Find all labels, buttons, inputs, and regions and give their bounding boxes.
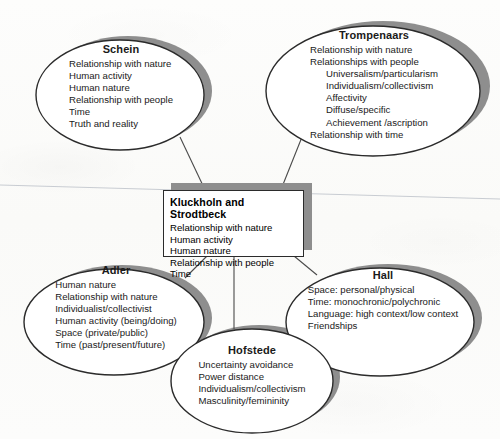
node-items-hofstede: Uncertainty avoidance Power distance Ind… <box>198 359 305 407</box>
node-label-hall: Hall Space: personal/physical Time: mono… <box>295 270 471 332</box>
node-item: Space (private/public) <box>55 327 177 339</box>
node-item: Individualism/collectivism <box>198 383 305 395</box>
node-item: Relationship with people <box>69 94 173 106</box>
node-title-hofstede: Hofstede <box>170 345 334 356</box>
center-item: Human activity <box>170 234 274 246</box>
node-item: Space: personal/physical <box>308 284 458 296</box>
node-item: Individualist/collectivist <box>55 303 177 315</box>
center-box-items: Relationship with nature Human activity … <box>170 222 274 280</box>
node-item: Power distance <box>198 371 305 383</box>
node-title-hall: Hall <box>295 270 471 281</box>
node-item: Relationship with time <box>310 129 438 141</box>
node-item: Uncertainty avoidance <box>198 359 305 371</box>
node-item: Relationship with nature <box>55 291 177 303</box>
center-item: Time <box>170 268 274 280</box>
node-item: Human activity <box>69 70 173 82</box>
node-title-trompenaars: Trompenaars <box>283 30 465 41</box>
node-item: Diffuse/specific <box>310 104 438 116</box>
node-item: Truth and reality <box>69 118 173 130</box>
diagram-canvas: Kluckholn and Strodtbeck Relationship wi… <box>0 0 500 439</box>
node-item: Individualism/collectivism <box>310 80 438 92</box>
node-item: Masculinity/femininity <box>198 395 305 407</box>
node-item: Human nature <box>69 82 173 94</box>
node-item: Relationship with nature <box>310 44 438 56</box>
node-label-schein: Schein Relationship with nature Human ac… <box>40 44 202 131</box>
node-item: Human activity (being/doing) <box>55 315 177 327</box>
node-item: Time (past/present/future) <box>55 339 177 351</box>
center-item: Human nature <box>170 245 274 257</box>
node-items-schein: Relationship with nature Human activity … <box>69 58 173 131</box>
node-item: Time <box>69 106 173 118</box>
node-center-kluckholn-strodtbeck[interactable]: Kluckholn and Strodtbeck Relationship wi… <box>163 190 304 257</box>
center-box-title: Kluckholn and Strodtbeck <box>170 196 303 220</box>
node-title-schein: Schein <box>40 44 202 55</box>
node-item: Time: monochronic/polychronic <box>308 296 458 308</box>
node-item: Affectivity <box>310 92 438 104</box>
node-label-hofstede: Hofstede Uncertainty avoidance Power dis… <box>170 345 334 407</box>
node-label-trompenaars: Trompenaars Relationship with nature Rel… <box>283 30 465 141</box>
node-items-trompenaars: Relationship with nature Relationships w… <box>310 44 438 141</box>
node-item: Relationships with people <box>310 56 438 68</box>
node-item: Relationship with nature <box>69 58 173 70</box>
node-items-hall: Space: personal/physical Time: monochron… <box>308 284 458 332</box>
node-items-adler: Human nature Relationship with nature In… <box>55 279 177 352</box>
node-item: Universalism/particularism <box>310 68 438 80</box>
node-item: Achievement /ascription <box>310 117 438 129</box>
center-item: Relationship with nature <box>170 222 274 234</box>
node-item: Human nature <box>55 279 177 291</box>
center-item: Relationship with people <box>170 257 274 269</box>
node-item: Language: high context/low context <box>308 308 458 320</box>
node-item: Friendships <box>308 320 458 332</box>
